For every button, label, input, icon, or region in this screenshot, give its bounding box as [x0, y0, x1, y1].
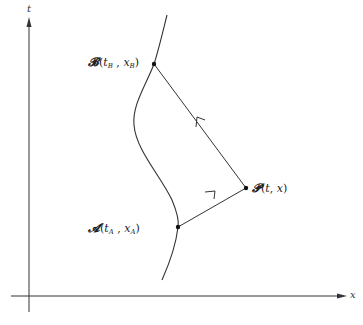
x-axis-label: x — [350, 289, 356, 300]
event-symbol-A: 𝓐 — [88, 221, 100, 235]
event-label-P: 𝓟(t, x) — [252, 182, 287, 194]
event-symbol-P: 𝓟 — [252, 181, 261, 195]
x-axis-arrow-icon — [337, 294, 347, 299]
paren-close: ) — [136, 222, 140, 235]
event-label-A: 𝓐(tA , xA) — [88, 222, 140, 236]
light-ray-P-to-B — [154, 64, 246, 188]
light-ray-A-to-P — [178, 188, 246, 227]
ray-direction-arrow-icon-AP — [205, 191, 215, 199]
t-axis-arrow-icon — [27, 17, 32, 27]
t-axis-label: t — [27, 3, 31, 14]
event-symbol-B: 𝓑 — [88, 55, 99, 69]
worldline-curve — [134, 15, 178, 280]
event-point-A — [176, 225, 180, 229]
separator: , — [114, 222, 125, 235]
t-axis — [27, 17, 32, 312]
paren-close: ) — [283, 182, 287, 195]
event-label-B: 𝓑(tB , xB) — [88, 56, 139, 70]
paren-close: ) — [135, 56, 139, 69]
separator: , — [270, 182, 277, 195]
spacetime-diagram — [0, 0, 363, 325]
event-point-B — [152, 62, 156, 66]
event-point-P — [244, 186, 248, 190]
x-axis — [11, 294, 347, 299]
separator: , — [113, 56, 124, 69]
